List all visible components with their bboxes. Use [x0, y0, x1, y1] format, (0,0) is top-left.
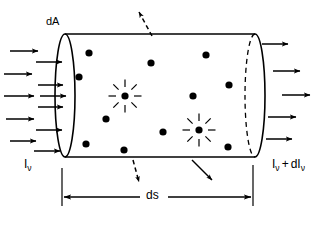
radiative-transfer-diagram: [0, 0, 328, 234]
cylinder-body: [65, 34, 255, 157]
scattering-dot: [189, 92, 196, 99]
outgoing-beam-arrows: [262, 44, 310, 139]
starburst-ray: [187, 118, 192, 123]
intensity-out-subscript: ν: [275, 163, 279, 173]
scattering-dot: [159, 128, 166, 135]
starburst-ray: [113, 102, 118, 107]
right-end-front-arc: [255, 34, 265, 157]
label-intensity-out: Iν+dIν: [272, 158, 305, 173]
emission-source-2: [183, 114, 216, 147]
scattering-dot: [120, 146, 127, 153]
intensity-out-delta-base: dI: [291, 157, 301, 171]
intensity-out-plus: +: [282, 157, 289, 171]
scattering-dot: [75, 73, 82, 80]
starburst-core: [195, 126, 202, 133]
escape-arrow-bottom-left: [133, 160, 139, 182]
figure-canvas: dA Iν Iν+dIν ds: [0, 0, 328, 234]
scattering-centers: [75, 49, 232, 153]
starburst-core: [121, 92, 128, 99]
scattering-dot: [147, 59, 154, 66]
starburst-ray: [205, 136, 210, 141]
starburst-ray: [131, 84, 136, 89]
intensity-out-delta-subscript: ν: [301, 163, 305, 173]
scattering-dot: [202, 51, 209, 58]
scattering-dot: [224, 143, 231, 150]
emission-source-1: [109, 80, 142, 113]
starburst-ray: [205, 118, 210, 123]
label-area-element: dA: [46, 16, 59, 27]
starburst-ray: [131, 102, 136, 107]
label-intensity-in: Iν: [24, 158, 32, 173]
starburst-ray: [113, 84, 118, 89]
scattering-dot: [82, 140, 89, 147]
intensity-in-subscript: ν: [27, 163, 31, 173]
starburst-ray: [187, 136, 192, 141]
escape-arrow-top: [139, 12, 152, 36]
label-path-length: ds: [146, 189, 159, 201]
right-end-ellipse: [245, 34, 265, 157]
right-end-back-arc-dashed: [245, 34, 255, 157]
scattering-dot: [102, 115, 109, 122]
scattering-dot: [225, 81, 232, 88]
escape-arrow-bottom-right: [192, 160, 212, 180]
scattering-dot: [85, 49, 92, 56]
